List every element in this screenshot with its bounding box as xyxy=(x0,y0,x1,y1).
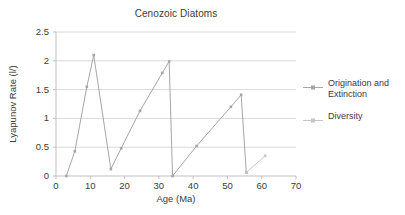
data-point-marker xyxy=(92,54,95,57)
chart-container: Cenozoic Diatoms Lyapunov Rate (l/) Age … xyxy=(0,0,405,215)
y-tick-label: 1.5 xyxy=(19,85,49,95)
series-1 xyxy=(65,54,248,178)
gridlines-group xyxy=(56,32,296,147)
x-tick-label: 10 xyxy=(77,181,103,191)
legend-marker-origination-and-extinction xyxy=(303,79,323,90)
legend-item-diversity[interactable]: Diversity xyxy=(303,111,403,122)
series-2 xyxy=(245,155,266,174)
x-tick-label: 40 xyxy=(180,181,206,191)
data-point-marker xyxy=(74,150,77,153)
data-point-marker xyxy=(120,147,123,150)
legend-marker-diversity xyxy=(303,112,323,123)
y-tick-label: 1 xyxy=(19,113,49,123)
data-point-marker xyxy=(264,155,267,158)
x-tick-label: 50 xyxy=(214,181,240,191)
legend-item-origination-and-extinction[interactable]: Origination andExtinction xyxy=(303,78,403,100)
data-point-marker xyxy=(139,110,142,113)
series-line xyxy=(66,55,246,176)
x-tick-label: 20 xyxy=(112,181,138,191)
data-point-marker xyxy=(240,93,243,96)
data-point-marker xyxy=(65,175,68,178)
data-point-marker xyxy=(245,171,248,174)
data-point-marker xyxy=(161,72,164,75)
data-point-marker xyxy=(195,145,198,148)
data-point-marker xyxy=(171,175,174,178)
axes-group xyxy=(53,32,296,179)
series-line xyxy=(246,156,265,173)
x-tick-label: 60 xyxy=(249,181,275,191)
y-tick-label: 2 xyxy=(19,56,49,66)
data-point-marker xyxy=(230,106,233,109)
y-tick-label: 0 xyxy=(19,171,49,181)
y-tick-label: 0.5 xyxy=(19,142,49,152)
legend-label-diversity: Diversity xyxy=(328,111,363,122)
legend-label-origination-and-extinction: Origination andExtinction xyxy=(328,78,389,100)
x-tick-label: 0 xyxy=(43,181,69,191)
data-point-marker xyxy=(110,168,113,171)
chart-legend: Origination andExtinction Diversity xyxy=(303,78,403,133)
data-point-marker xyxy=(86,85,89,88)
data-series-group xyxy=(65,54,266,178)
x-tick-label: 30 xyxy=(146,181,172,191)
x-tick-label: 70 xyxy=(283,181,309,191)
y-tick-label: 2.5 xyxy=(19,27,49,37)
data-point-marker xyxy=(168,60,171,63)
